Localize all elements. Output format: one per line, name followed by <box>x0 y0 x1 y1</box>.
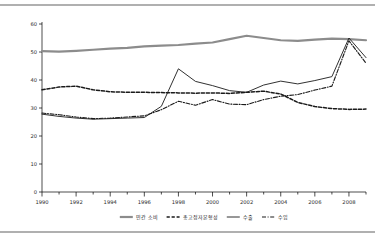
y-tick-label: 10 <box>30 161 37 167</box>
chart-container: 0102030405060199019921994199619982000200… <box>0 10 375 226</box>
x-tick-label: 1990 <box>35 199 48 205</box>
x-tick-label: 2008 <box>342 199 355 205</box>
legend-label-1: 민간 소비 <box>136 214 158 221</box>
x-tick-label: 2000 <box>206 199 219 205</box>
y-tick-label: 0 <box>34 189 37 195</box>
series-line-1 <box>42 36 366 52</box>
y-tick-label: 60 <box>30 21 37 27</box>
x-tick-label: 2006 <box>308 199 321 205</box>
x-tick-label: 1998 <box>172 199 185 205</box>
bottom-divider-rule <box>0 231 375 233</box>
x-tick-label: 1994 <box>104 199 118 205</box>
legend-label-2: 총고정자본형성 <box>183 214 218 221</box>
y-tick-label: 50 <box>30 49 37 55</box>
legend-label-4: 수입 <box>278 214 288 221</box>
y-tick-label: 40 <box>30 77 37 83</box>
line-chart: 0102030405060199019921994199619982000200… <box>0 10 375 226</box>
x-tick-label: 2002 <box>240 199 253 205</box>
y-tick-label: 20 <box>30 133 37 139</box>
x-tick-label: 1996 <box>138 199 151 205</box>
legend-label-3: 수출 <box>243 214 253 221</box>
y-tick-label: 30 <box>30 105 37 111</box>
top-divider-rule <box>0 4 375 6</box>
x-tick-label: 1992 <box>70 199 83 205</box>
x-tick-label: 2004 <box>274 199 288 205</box>
